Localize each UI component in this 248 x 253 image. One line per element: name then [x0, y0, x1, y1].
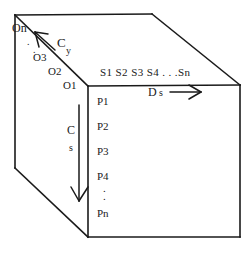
- vertical-axis-arrow: [71, 105, 88, 201]
- depth-tick-on: On: [12, 22, 27, 34]
- horizontal-axis-label: D: [148, 86, 157, 98]
- edge-bottom-left-receding: [15, 168, 88, 237]
- edge-front-top: [88, 85, 240, 86]
- vertical-axis-label: C: [67, 124, 75, 136]
- vertical-tick-p3: P3: [97, 146, 109, 157]
- depth-ellipsis-dot: .: [33, 45, 36, 55]
- vertical-tick-p4: P4: [97, 171, 109, 182]
- depth-ellipsis-dot: .: [27, 37, 30, 47]
- vertical-tick-p1: P1: [97, 96, 109, 107]
- vertical-tick-pn: Pn: [97, 208, 109, 219]
- depth-axis-label: C: [57, 36, 66, 49]
- horizontal-tick-row: S1 S2 S3 S4 . . .Sn: [100, 67, 190, 78]
- vertical-axis-label-subscript: s: [69, 143, 73, 153]
- cube-wireframe: [0, 0, 248, 253]
- depth-axis-arrow: [35, 32, 55, 50]
- depth-axis-label-subscript: y: [66, 46, 71, 56]
- cube-diagram-canvas: On O3 O2 O1 . . C y S1 S2 S3 S4 . . .Sn …: [0, 0, 248, 253]
- depth-tick-o1: O1: [63, 80, 76, 91]
- horizontal-axis-label-subscript: s: [159, 88, 163, 98]
- horizontal-axis-arrow: [170, 85, 201, 99]
- depth-tick-o2: O2: [48, 66, 61, 77]
- vertical-tick-p2: P2: [97, 121, 109, 132]
- edge-top-back: [15, 14, 152, 15]
- vertical-ellipsis-dot: .: [103, 191, 107, 202]
